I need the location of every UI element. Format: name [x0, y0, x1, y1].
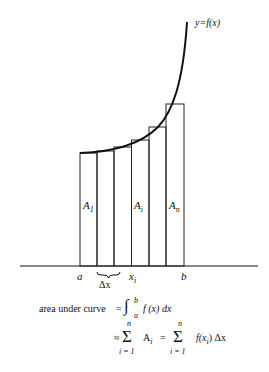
- term-fxi-dx: f(xi) Δx: [196, 333, 226, 346]
- formula-eq2: =: [160, 333, 166, 343]
- integrand: f (x) dx: [143, 304, 171, 314]
- integral-sign: ∫: [124, 297, 129, 314]
- rectangles: [80, 104, 184, 266]
- brace-icon: [97, 272, 120, 278]
- term-ai: Ai: [143, 333, 152, 346]
- rect-label-ai: Ai: [134, 200, 143, 214]
- integral-upper: b: [134, 297, 138, 305]
- rect-5: [149, 127, 166, 266]
- axis-label-xi: xi: [129, 271, 136, 285]
- axis-label-b: b: [181, 271, 187, 282]
- formula-eq1: =: [116, 304, 122, 314]
- rect-6: [166, 104, 184, 266]
- formula-lhs: area under curve: [39, 304, 106, 314]
- approx-sign: ≈: [114, 333, 120, 343]
- sum1-sign: Σ: [122, 328, 132, 345]
- rect-3: [114, 147, 132, 266]
- rect-label-an: An: [169, 200, 180, 214]
- sum2-sign: Σ: [173, 328, 183, 345]
- axis-label-dx: Δx: [99, 280, 110, 290]
- rect-2: [97, 151, 114, 266]
- sum1-bottom: i = 1: [119, 348, 135, 356]
- integral-lower: a: [134, 312, 138, 320]
- axis-label-a: a: [77, 271, 83, 282]
- sum2-bottom: i = 1: [170, 348, 186, 356]
- curve-label: y=f(x): [195, 18, 220, 28]
- curve-fx: [80, 22, 187, 153]
- rect-label-a1: A1: [83, 200, 94, 214]
